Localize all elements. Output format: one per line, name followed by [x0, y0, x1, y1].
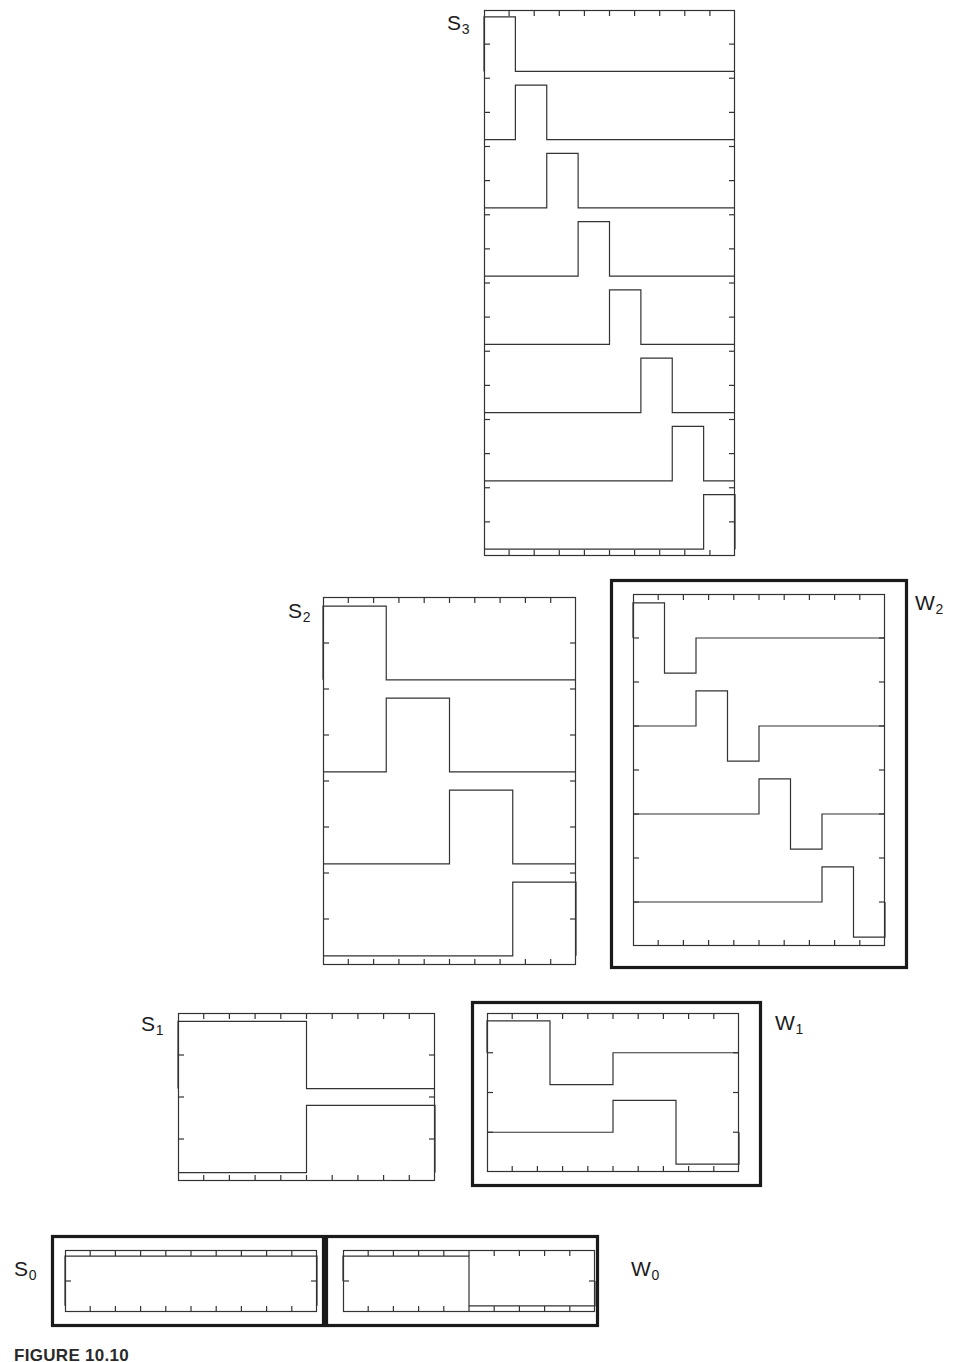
panel-label-s3: S3	[447, 12, 469, 33]
panel-label-letter: S	[141, 1012, 155, 1035]
basis-function-w2-0	[633, 603, 885, 673]
basis-function-s3-2	[484, 153, 735, 208]
figure-caption: FIGURE 10.10	[14, 1346, 129, 1362]
panel-frame-w2	[634, 595, 885, 946]
panel-frame-w1	[488, 1014, 739, 1172]
panel-label-subscript: 3	[462, 21, 470, 37]
panel-label-subscript: 2	[303, 609, 311, 625]
panel-label-w2: W2	[915, 592, 943, 613]
panel-label-letter: S	[447, 11, 461, 34]
panel-heavy-frame-w1	[473, 1003, 761, 1186]
panel-label-s1: S1	[141, 1013, 163, 1034]
basis-function-w0-0	[343, 1256, 595, 1306]
panel-heavy-frame-w0	[327, 1237, 598, 1326]
basis-function-s3-6	[484, 426, 735, 481]
basis-function-w2-3	[633, 867, 885, 937]
panel-label-letter: S	[288, 599, 302, 622]
panel-frame-s3	[485, 11, 735, 556]
basis-function-s3-5	[484, 358, 735, 413]
panel-label-w0: W0	[631, 1258, 659, 1279]
panel-label-letter: W	[915, 591, 935, 614]
basis-function-s3-0	[484, 17, 735, 72]
panel-frame-s0	[66, 1251, 317, 1312]
panel-label-letter: S	[14, 1257, 28, 1280]
panel-label-subscript: 1	[156, 1022, 164, 1038]
basis-function-s1-1	[178, 1105, 435, 1172]
basis-function-s2-0	[323, 606, 576, 680]
panel-label-subscript: 0	[29, 1267, 37, 1283]
basis-function-s2-3	[323, 882, 576, 956]
panel-s2	[323, 597, 576, 965]
figure-root: S3 S2 W2 S1 W1 S0 W0 FIGURE 10.10	[0, 0, 959, 1362]
basis-function-s3-1	[484, 85, 735, 140]
panel-frame-s2	[324, 598, 576, 965]
panel-heavy-frame-s0	[53, 1237, 324, 1326]
basis-function-w1-1	[487, 1100, 739, 1164]
panel-s3	[484, 10, 735, 556]
panel-s0	[53, 1237, 324, 1326]
panel-label-w1: W1	[775, 1012, 803, 1033]
panel-label-subscript: 0	[652, 1267, 660, 1283]
panels-layer	[53, 10, 907, 1326]
panel-w2	[612, 581, 907, 968]
basis-function-w1-0	[487, 1021, 739, 1085]
basis-function-w2-2	[633, 779, 885, 849]
basis-function-s0-0	[65, 1256, 317, 1306]
panel-w0	[327, 1237, 598, 1326]
panel-label-letter: W	[775, 1011, 795, 1034]
basis-function-s2-2	[323, 790, 576, 864]
panel-label-letter: W	[631, 1257, 651, 1280]
basis-function-w2-1	[633, 691, 885, 761]
panel-s1	[178, 1013, 435, 1181]
basis-function-s3-4	[484, 290, 735, 345]
panel-label-subscript: 1	[796, 1021, 804, 1037]
basis-function-s3-7	[484, 495, 735, 550]
panel-w1	[473, 1003, 761, 1186]
panel-label-s0: S0	[14, 1258, 36, 1279]
figure-canvas	[0, 0, 959, 1362]
basis-function-s1-0	[178, 1021, 435, 1088]
panel-label-s2: S2	[288, 600, 310, 621]
basis-function-s3-3	[484, 222, 735, 277]
basis-function-s2-1	[323, 698, 576, 772]
panel-label-subscript: 2	[936, 601, 944, 617]
